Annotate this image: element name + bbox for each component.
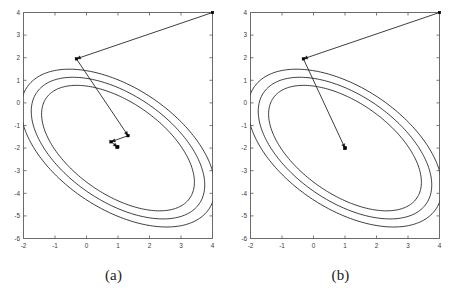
svg-text:-3: -3	[14, 167, 20, 174]
svg-text:2: 2	[148, 242, 152, 249]
panel-b: -2-101234-6-5-4-3-2-101234 (b)	[227, 0, 454, 288]
svg-text:-1: -1	[241, 122, 247, 129]
iterate-marker	[110, 140, 113, 143]
svg-text:2: 2	[375, 242, 379, 249]
svg-text:4: 4	[16, 9, 20, 16]
iterate-marker	[116, 145, 119, 148]
iterate-marker	[438, 11, 441, 14]
svg-text:0: 0	[312, 242, 316, 249]
svg-text:1: 1	[343, 242, 347, 249]
svg-text:0: 0	[85, 242, 89, 249]
iterate-marker	[343, 146, 346, 149]
panel-a-caption: (a)	[0, 267, 227, 284]
svg-text:0: 0	[16, 99, 20, 106]
svg-text:-5: -5	[14, 212, 20, 219]
svg-text:3: 3	[243, 31, 247, 38]
svg-text:4: 4	[243, 9, 247, 16]
svg-text:-2: -2	[248, 242, 254, 249]
svg-text:-3: -3	[241, 167, 247, 174]
panel-b-caption: (b)	[227, 267, 454, 284]
svg-text:-6: -6	[14, 235, 20, 242]
plot-a: -2-101234-6-5-4-3-2-101234	[0, 0, 227, 288]
svg-text:-1: -1	[279, 242, 285, 249]
svg-text:-4: -4	[14, 190, 20, 197]
svg-text:4: 4	[438, 242, 442, 249]
svg-text:1: 1	[16, 77, 20, 84]
svg-text:-1: -1	[14, 122, 20, 129]
svg-text:-2: -2	[241, 144, 247, 151]
svg-text:2: 2	[243, 54, 247, 61]
iterate-marker	[75, 58, 78, 61]
svg-text:3: 3	[406, 242, 410, 249]
svg-text:1: 1	[243, 77, 247, 84]
figure-container: -2-101234-6-5-4-3-2-101234 (a) -2-101234…	[0, 0, 455, 288]
svg-text:4: 4	[211, 242, 215, 249]
svg-text:2: 2	[16, 54, 20, 61]
svg-text:-1: -1	[52, 242, 58, 249]
svg-text:-2: -2	[14, 144, 20, 151]
svg-text:1: 1	[116, 242, 120, 249]
svg-text:-5: -5	[241, 212, 247, 219]
plot-b: -2-101234-6-5-4-3-2-101234	[227, 0, 454, 288]
svg-text:0: 0	[243, 99, 247, 106]
svg-text:3: 3	[179, 242, 183, 249]
iterate-marker	[127, 134, 130, 137]
iterate-marker	[302, 58, 305, 61]
svg-text:-6: -6	[241, 235, 247, 242]
svg-text:3: 3	[16, 31, 20, 38]
svg-text:-2: -2	[21, 242, 27, 249]
panel-a: -2-101234-6-5-4-3-2-101234 (a)	[0, 0, 227, 288]
svg-text:-4: -4	[241, 190, 247, 197]
iterate-marker	[211, 11, 214, 14]
